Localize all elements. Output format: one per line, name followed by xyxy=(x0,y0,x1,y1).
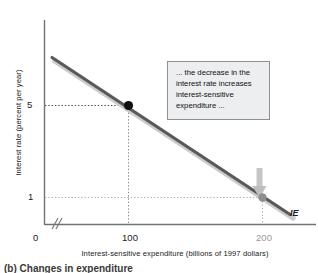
ie-curve-label: IE xyxy=(290,208,299,218)
axis-break-icon xyxy=(52,218,62,229)
x-tick-label-200: 200 xyxy=(251,233,277,243)
x-tick-label-0: 0 xyxy=(33,233,38,243)
data-point-b[interactable] xyxy=(258,193,266,201)
data-point-a[interactable] xyxy=(124,101,133,110)
y-tick-label-5: 5 xyxy=(27,100,32,110)
y-tick-label-1: 1 xyxy=(28,192,33,202)
x-tick-label-100: 100 xyxy=(117,233,143,243)
figure-container: Interest rate (percent per year) Interes… xyxy=(0,0,318,273)
figure-caption: (b) Changes in expenditure xyxy=(4,263,133,273)
x-axis-title: Interest-sensitive expenditure (billions… xyxy=(36,249,314,258)
callout-annotation: ... the decrease in the interest rate in… xyxy=(167,61,270,120)
y-axis-title: Interest rate (percent per year) xyxy=(14,33,23,213)
